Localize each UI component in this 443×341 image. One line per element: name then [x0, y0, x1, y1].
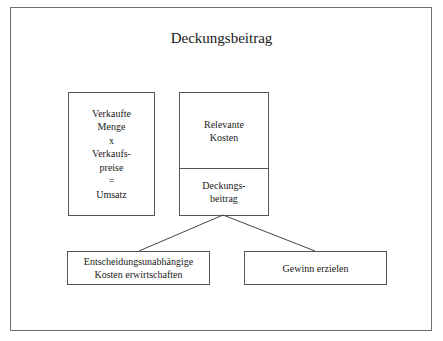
connector-to-profit — [223, 215, 315, 251]
profit-line: Gewinn erzielen — [283, 262, 349, 275]
connector-lines — [0, 0, 443, 341]
connector-to-fixed-costs — [139, 215, 223, 251]
fixed-costs-line: Kosten erwirtschaften — [94, 268, 182, 281]
fixed-costs-box: Entscheidungsunabhängige Kosten erwirtsc… — [67, 251, 210, 285]
fixed-costs-line: Entscheidungsunabhängige — [84, 255, 193, 268]
profit-box: Gewinn erzielen — [244, 251, 387, 285]
